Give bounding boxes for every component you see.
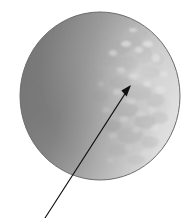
planetary-body (18, 10, 182, 184)
surface-grain (18, 10, 182, 184)
figure-root (0, 0, 196, 218)
planet-figure-svg (0, 0, 196, 218)
sphere-surface-texture (18, 10, 182, 184)
